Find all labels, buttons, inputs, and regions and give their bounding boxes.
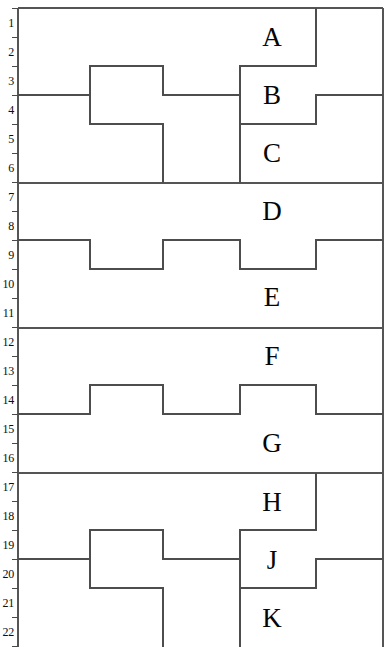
unit-label-f: F <box>252 343 292 370</box>
unit-label-g: G <box>252 430 292 457</box>
contact-d-e <box>18 240 383 269</box>
scale-number: 12 <box>0 336 14 348</box>
scale-number: 9 <box>0 249 14 261</box>
unit-label-e: E <box>252 284 292 311</box>
scale-number: 3 <box>0 75 14 87</box>
unit-label-j: J <box>252 547 292 574</box>
cross-section-drawing <box>0 0 389 647</box>
scale-number: 8 <box>0 220 14 232</box>
scale-number: 10 <box>0 278 14 290</box>
scale-number: 7 <box>0 191 14 203</box>
scale-number: 6 <box>0 162 14 174</box>
scale-number: 13 <box>0 365 14 377</box>
panel-2-boundaries <box>18 240 383 269</box>
scale-number: 5 <box>0 133 14 145</box>
unit-label-a: A <box>252 24 292 51</box>
panel-4-boundaries <box>18 473 383 647</box>
scale-number: 11 <box>0 307 14 319</box>
unit-label-b: B <box>252 82 292 109</box>
scale-number: 20 <box>0 568 14 580</box>
scale-number: 16 <box>0 452 14 464</box>
panel-dividers <box>18 183 383 473</box>
scale-number: 21 <box>0 597 14 609</box>
panel-1-boundaries <box>18 8 383 183</box>
scale-number: 22 <box>0 626 14 638</box>
contact-b-c <box>18 95 383 183</box>
unit-label-h: H <box>252 489 292 516</box>
figure-canvas: 1 2 3 4 5 6 7 8 9 10 11 12 13 14 15 16 1… <box>0 0 389 647</box>
unit-label-k: K <box>252 605 292 632</box>
scale-number: 4 <box>0 104 14 116</box>
contact-f-g <box>18 385 383 414</box>
scale-number: 2 <box>0 46 14 58</box>
scale-number: 1 <box>0 17 14 29</box>
scale-number: 18 <box>0 510 14 522</box>
scale-number: 15 <box>0 423 14 435</box>
contact-j-k <box>18 559 383 647</box>
scale-number: 17 <box>0 481 14 493</box>
scale-number: 14 <box>0 394 14 406</box>
unit-label-c: C <box>252 140 292 167</box>
unit-label-d: D <box>252 198 292 225</box>
scale-number: 19 <box>0 539 14 551</box>
panel-3-boundaries <box>18 385 383 414</box>
